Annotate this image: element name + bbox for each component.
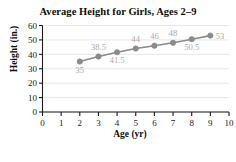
x-tick-label: 0 (40, 118, 45, 128)
data-point-label: 35 (76, 65, 85, 75)
y-tick-label: 60 (28, 21, 38, 31)
y-tick-label: 20 (28, 78, 38, 88)
x-tick-label: 5 (134, 118, 139, 128)
plot-area: 0102030405060 012345678910 3538.541.5444… (0, 0, 236, 162)
data-point-label: 50.5 (184, 42, 199, 52)
data-point (133, 46, 138, 51)
chart-container: Average Height for Girls, Ages 2–9 Heigh… (0, 0, 236, 162)
x-tick-label: 1 (59, 118, 64, 128)
data-point (152, 43, 157, 48)
x-tick-label: 6 (152, 118, 157, 128)
data-point-label: 53 (216, 31, 225, 41)
y-axis: 0102030405060 (28, 21, 43, 118)
x-tick-label: 2 (78, 118, 83, 128)
data-point (77, 59, 82, 64)
x-tick-label: 7 (171, 118, 176, 128)
x-axis: 012345678910 (40, 112, 234, 128)
x-tick-label: 10 (225, 118, 235, 128)
data-point-label: 48 (169, 28, 178, 38)
data-point (170, 40, 175, 45)
x-tick-label: 8 (189, 118, 194, 128)
data-point-label: 41.5 (110, 55, 125, 65)
y-tick-label: 0 (33, 107, 38, 117)
data-point (189, 36, 194, 41)
x-tick-label: 3 (96, 118, 101, 128)
data-point-labels: 3538.541.544464850.553 (76, 28, 225, 74)
data-point (114, 49, 119, 54)
y-tick-label: 40 (28, 50, 38, 60)
x-tick-label: 9 (208, 118, 213, 128)
data-point (96, 54, 101, 59)
y-tick-label: 10 (28, 93, 38, 103)
data-point-label: 46 (150, 31, 159, 41)
y-tick-label: 50 (28, 35, 38, 45)
data-point (208, 33, 213, 38)
y-tick-label: 30 (28, 64, 38, 74)
data-point-label: 44 (132, 34, 141, 44)
x-tick-label: 4 (115, 118, 120, 128)
data-point-label: 38.5 (91, 42, 106, 52)
